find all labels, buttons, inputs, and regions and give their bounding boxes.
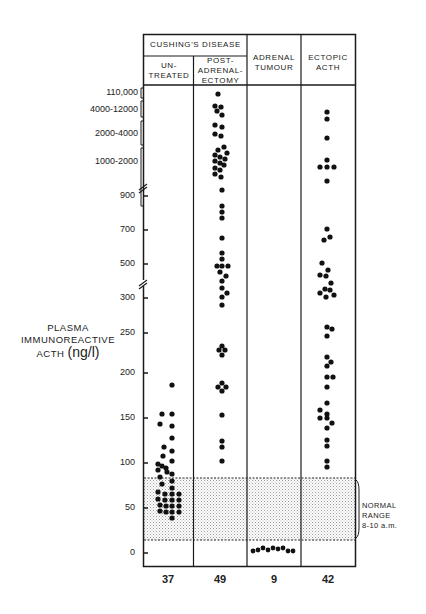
y-tick-label: 100 [75, 457, 135, 467]
y-tick-label: 300 [75, 292, 135, 302]
y-tick-label: 500 [75, 258, 135, 268]
y-tick-label: 700 [75, 224, 135, 234]
header-line: ECTOPIC [301, 53, 355, 63]
series-adrenaltumour-points [251, 546, 296, 554]
header-line: ADRENAL- [194, 66, 247, 76]
normal-range-band [144, 478, 355, 540]
count-postadrenalectomy: 49 [200, 573, 240, 585]
group-header-cushings: CUSHING'S DISEASE [144, 40, 247, 50]
normal-range-line: NORMAL [362, 501, 397, 511]
y-bracket-label: 4000-12000 [48, 104, 138, 114]
count-untreated: 37 [148, 573, 188, 585]
y-axis-label: PLASMA IMMUNOREACTIVE ACTH (ng/l) [8, 322, 128, 360]
y-tick-label: 150 [75, 412, 135, 422]
count-adrenaltumour: 9 [254, 573, 294, 585]
normal-range-label: NORMAL RANGE 8-10 a.m. [362, 501, 397, 531]
y-axis-label-line: ACTH [37, 348, 65, 359]
series-ectopic-points [317, 109, 336, 469]
series-postadrenalectomy-points [212, 91, 230, 463]
header-line: UN- [144, 61, 194, 71]
y-axis-unit: (ng/l) [68, 344, 100, 360]
header-line: ACTH [301, 63, 355, 73]
column-header-ectopic: ECTOPIC ACTH [301, 53, 355, 73]
y-tick-label: 50 [75, 502, 135, 512]
header-line: ADRENAL [247, 53, 301, 63]
y-tick-label: 200 [75, 367, 135, 377]
y-bracket-label: 110,000 [48, 87, 138, 97]
column-header-postadrenalectomy: POST- ADRENAL- ECTOMY [194, 56, 247, 86]
y-tick-label: 0 [75, 547, 135, 557]
count-ectopic: 42 [308, 573, 348, 585]
y-tick-label: 900 [75, 190, 135, 200]
y-bracket-label: 1000-2000 [48, 156, 138, 166]
header-line: TREATED [144, 71, 194, 81]
y-axis-label-line: PLASMA [8, 322, 128, 334]
normal-range-bracket [356, 480, 359, 538]
header-line: TUMOUR [247, 63, 301, 73]
y-bracket-label: 2000-4000 [48, 128, 138, 138]
normal-range-line: RANGE [362, 511, 397, 521]
header-line: ECTOMY [194, 76, 247, 86]
column-header-untreated: UN- TREATED [144, 61, 194, 81]
normal-range-line: 8-10 a.m. [362, 521, 397, 531]
header-line: POST- [194, 56, 247, 66]
column-header-adrenaltumour: ADRENAL TUMOUR [247, 53, 301, 73]
